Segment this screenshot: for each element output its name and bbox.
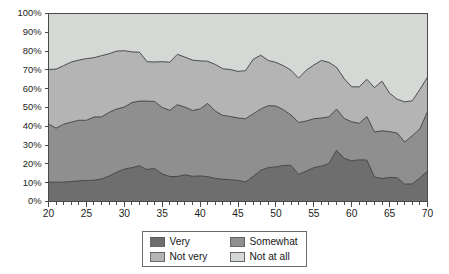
legend-label-somewhat[interactable]: Somewhat: [250, 236, 298, 247]
legend-label-very[interactable]: Very: [170, 236, 191, 247]
y-tick-label: 40%: [23, 120, 42, 131]
x-tick-label: 40: [194, 208, 206, 219]
y-tick-label: 100%: [18, 7, 42, 18]
y-axis: 0%10%20%30%40%50%60%70%80%90%100%: [18, 7, 49, 206]
x-axis: 2025303540455055606570: [43, 202, 434, 219]
y-tick-label: 90%: [23, 26, 42, 37]
plot-bands: [49, 14, 428, 202]
y-tick-label: 80%: [23, 45, 42, 56]
y-tick-label: 0%: [28, 195, 42, 206]
x-tick-label: 25: [81, 208, 93, 219]
y-tick-label: 20%: [23, 158, 42, 169]
x-tick-label: 35: [157, 208, 169, 219]
legend-swatch-not-very[interactable]: [151, 252, 165, 261]
x-tick-label: 55: [308, 208, 320, 219]
legend-label-not-at-all[interactable]: Not at all: [250, 251, 290, 262]
chart-canvas: 0%10%20%30%40%50%60%70%80%90%100% 202530…: [0, 0, 449, 274]
x-tick-label: 50: [270, 208, 282, 219]
legend-label-not-very[interactable]: Not very: [170, 251, 209, 262]
x-tick-label: 30: [119, 208, 131, 219]
y-tick-label: 60%: [23, 83, 42, 94]
stacked-area-chart: 0%10%20%30%40%50%60%70%80%90%100% 202530…: [0, 0, 449, 274]
legend-swatch-somewhat[interactable]: [231, 237, 245, 246]
x-tick-label: 70: [422, 208, 434, 219]
legend-swatch-not-at-all[interactable]: [231, 252, 245, 261]
x-tick-label: 60: [346, 208, 358, 219]
legend: VerySomewhatNot veryNot at all: [143, 232, 307, 267]
y-tick-label: 10%: [23, 177, 42, 188]
x-tick-label: 20: [43, 208, 55, 219]
y-tick-label: 70%: [23, 64, 42, 75]
y-tick-label: 30%: [23, 139, 42, 150]
y-tick-label: 50%: [23, 101, 42, 112]
x-tick-label: 45: [232, 208, 244, 219]
legend-swatch-very[interactable]: [151, 237, 165, 246]
x-tick-label: 65: [384, 208, 396, 219]
